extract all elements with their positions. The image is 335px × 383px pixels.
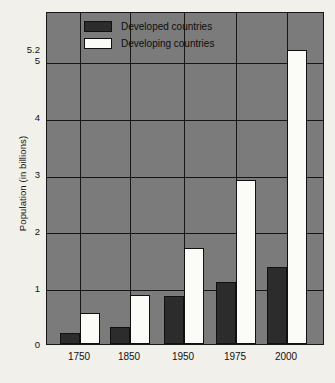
legend-swatch-developed-icon — [84, 21, 112, 32]
x-tick-label-2000: 2000 — [256, 352, 316, 362]
plot-area: Developed countries Developing countries — [46, 12, 324, 345]
x-tick-label-1850: 1850 — [99, 352, 159, 362]
bar-developed-1850 — [110, 327, 130, 344]
legend-item-developing: Developing countries — [84, 36, 284, 51]
y-tick-label-5: 5 — [0, 56, 40, 66]
y-tick-label-3: 3 — [0, 170, 40, 180]
bar-developing-1975 — [236, 180, 256, 344]
chart-legend: Developed countries Developing countries — [84, 19, 284, 53]
legend-item-developed: Developed countries — [84, 19, 284, 34]
bar-developing-1950 — [184, 248, 204, 344]
bar-developed-1975 — [216, 282, 236, 344]
y-tick-label-0: 0 — [0, 340, 40, 350]
bar-developed-1750 — [60, 333, 80, 344]
y-tick-label-5-2: 5.2 — [0, 45, 40, 55]
bar-developing-1750 — [80, 313, 100, 344]
gridline-y-5 — [47, 63, 323, 64]
bar-developed-1950 — [164, 296, 184, 344]
legend-label-developing: Developing countries — [121, 38, 214, 49]
y-tick-label-1: 1 — [0, 284, 40, 294]
gridline-y-4 — [47, 120, 323, 121]
x-tick-label-1950: 1950 — [153, 352, 213, 362]
legend-swatch-developing-icon — [84, 38, 112, 49]
gridline-x-1 — [80, 13, 81, 344]
population-bar-chart: Population (in billions) 5.2 5 4 3 2 1 0 — [0, 0, 335, 383]
y-tick-label-4: 4 — [0, 113, 40, 123]
legend-label-developed: Developed countries — [121, 21, 212, 32]
y-tick-label-2: 2 — [0, 227, 40, 237]
bar-developed-2000 — [267, 267, 287, 344]
gridline-y-2 — [47, 233, 323, 234]
gridline-y-3 — [47, 177, 323, 178]
bar-developing-1850 — [130, 295, 150, 344]
bar-developing-2000 — [287, 50, 307, 344]
